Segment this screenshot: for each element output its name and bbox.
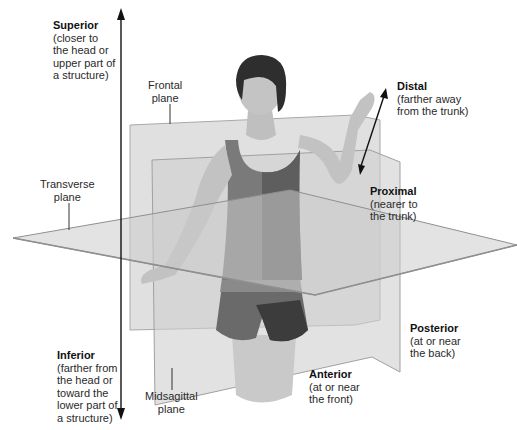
transverse-plane bbox=[13, 190, 517, 295]
midsagittal-plane-label: Midsagittal plane bbox=[145, 390, 198, 415]
frontal-plane-label: Frontal plane bbox=[148, 79, 182, 104]
superior-title: Superior bbox=[53, 19, 115, 32]
superior-arrowhead-icon bbox=[117, 8, 125, 20]
midsagittal-plane-line: plane bbox=[145, 403, 198, 416]
inferior-label: Inferior (farther from the head or towar… bbox=[57, 349, 118, 424]
posterior-title: Posterior bbox=[410, 322, 461, 335]
superior-line: upper part of bbox=[53, 57, 115, 70]
proximal-line: the trunk) bbox=[370, 210, 418, 223]
posterior-line: (at or near bbox=[410, 335, 461, 348]
proximal-label: Proximal (nearer to the trunk) bbox=[370, 185, 418, 223]
inferior-arrowhead-icon bbox=[117, 408, 125, 420]
inferior-line: toward the bbox=[57, 387, 118, 400]
anterior-line: (at or near bbox=[309, 381, 360, 394]
superior-line: (closer to bbox=[53, 32, 115, 45]
distal-line: (farther away bbox=[397, 93, 469, 106]
inferior-line: lower part of bbox=[57, 399, 118, 412]
transverse-plane-line: Transverse bbox=[40, 178, 95, 191]
superior-line: a structure) bbox=[53, 69, 115, 82]
distal-label: Distal (farther away from the trunk) bbox=[397, 80, 469, 118]
distal-line: from the trunk) bbox=[397, 105, 469, 118]
inferior-title: Inferior bbox=[57, 349, 118, 362]
distal-title: Distal bbox=[397, 80, 469, 93]
transverse-plane-line: plane bbox=[40, 191, 95, 204]
transverse-plane-label: Transverse plane bbox=[40, 178, 95, 203]
superior-line: the head or bbox=[53, 44, 115, 57]
posterior-label: Posterior (at or near the back) bbox=[410, 322, 461, 360]
anterior-line: the front) bbox=[309, 393, 360, 406]
distal-arrowhead-icon bbox=[380, 88, 388, 99]
posterior-line: the back) bbox=[410, 347, 461, 360]
proximal-line: (nearer to bbox=[370, 198, 418, 211]
proximal-title: Proximal bbox=[370, 185, 418, 198]
inferior-line: the head or bbox=[57, 374, 118, 387]
midsagittal-plane-line: Midsagittal bbox=[145, 390, 198, 403]
anterior-label: Anterior (at or near the front) bbox=[309, 368, 360, 406]
superior-label: Superior (closer to the head or upper pa… bbox=[53, 19, 115, 82]
frontal-plane-line: Frontal bbox=[148, 79, 182, 92]
frontal-plane-line: plane bbox=[148, 92, 182, 105]
inferior-line: (farther from bbox=[57, 362, 118, 375]
inferior-line: a structure) bbox=[57, 412, 118, 425]
figure-legs bbox=[232, 335, 296, 403]
anterior-title: Anterior bbox=[309, 368, 360, 381]
